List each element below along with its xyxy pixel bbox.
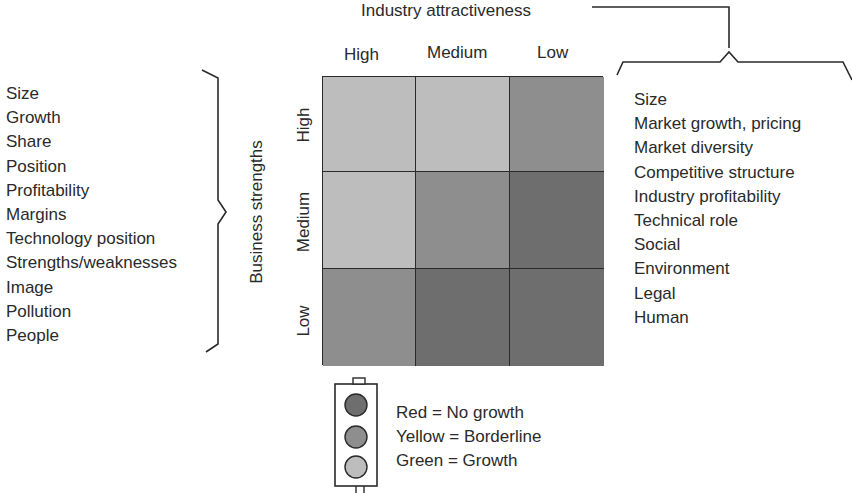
list-item: Market growth, pricing — [634, 112, 801, 136]
matrix-cell-medium-high — [323, 172, 416, 269]
column-header-low: Low — [537, 41, 568, 65]
list-item: Industry profitability — [634, 185, 801, 209]
yellow-light-icon — [345, 426, 367, 448]
row-header-medium: Medium — [292, 182, 316, 262]
list-item: Strengths/weaknesses — [6, 251, 177, 275]
list-item: Social — [634, 233, 801, 257]
legend-red: Red = No growth — [396, 401, 524, 425]
traffic-light-top-cap — [353, 378, 365, 384]
industry-attractiveness-factors-list: Size Market growth, pricing Market diver… — [634, 88, 801, 330]
ge-mckinsey-matrix — [322, 76, 603, 365]
matrix-cell-low-low — [510, 269, 604, 366]
list-item: Human — [634, 306, 801, 330]
column-header-high: High — [344, 43, 379, 67]
left-brace — [202, 70, 226, 352]
title-connector — [592, 7, 729, 48]
matrix-cell-low-medium — [416, 269, 510, 366]
row-header-high: High — [292, 95, 316, 155]
list-item: Technology position — [6, 227, 177, 251]
legend-yellow: Yellow = Borderline — [396, 425, 541, 449]
legend-green: Green = Growth — [396, 449, 517, 473]
matrix-cell-medium-medium — [416, 172, 510, 269]
business-strengths-axis-title: Business strengths — [245, 127, 269, 297]
list-item: Size — [6, 82, 177, 106]
list-item: Competitive structure — [634, 161, 801, 185]
traffic-light-bottom-post — [356, 486, 364, 493]
list-item: Pollution — [6, 300, 177, 324]
list-item: Size — [634, 88, 801, 112]
list-item: Profitability — [6, 179, 177, 203]
list-item: Share — [6, 130, 177, 154]
matrix-cell-high-medium — [416, 77, 510, 172]
industry-attractiveness-title: Industry attractiveness — [361, 0, 531, 23]
list-item: Growth — [6, 106, 177, 130]
column-header-medium: Medium — [427, 41, 487, 65]
list-item: Environment — [634, 257, 801, 281]
matrix-cell-high-low — [510, 77, 604, 172]
matrix-cell-low-high — [323, 269, 416, 366]
list-item: Market diversity — [634, 136, 801, 160]
right-brace — [617, 52, 852, 80]
list-item: Position — [6, 155, 177, 179]
row-header-low: Low — [292, 291, 316, 351]
business-strength-factors-list: Size Growth Share Position Profitability… — [6, 82, 177, 348]
matrix-cell-medium-low — [510, 172, 604, 269]
list-item: People — [6, 324, 177, 348]
green-light-icon — [345, 456, 367, 478]
list-item: Image — [6, 276, 177, 300]
matrix-cell-high-high — [323, 77, 416, 172]
red-light-icon — [345, 394, 367, 416]
list-item: Margins — [6, 203, 177, 227]
list-item: Technical role — [634, 209, 801, 233]
list-item: Legal — [634, 282, 801, 306]
